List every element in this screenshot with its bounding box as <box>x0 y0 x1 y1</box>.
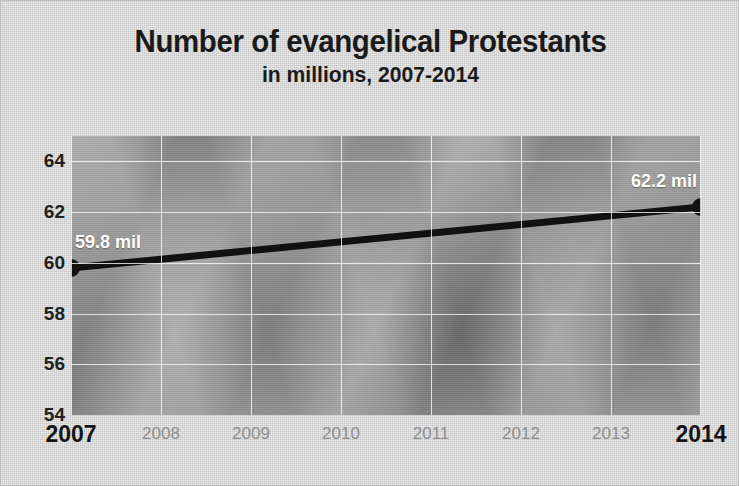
gridline-vertical <box>251 136 252 415</box>
gridline-horizontal <box>71 263 701 264</box>
chart-figure: Number of evangelical Protestants in mil… <box>0 0 739 486</box>
gridline-horizontal <box>71 212 701 213</box>
y-axis-tick-label: 62 <box>21 201 65 223</box>
chart-subtitle: in millions, 2007-2014 <box>16 62 725 88</box>
gridline-vertical <box>700 136 701 415</box>
gridline-vertical <box>431 136 432 415</box>
gridline-horizontal <box>71 364 701 365</box>
x-axis-tick-label: 2007 <box>45 419 96 449</box>
x-axis-tick-label: 2008 <box>142 419 180 449</box>
series-line-chart <box>71 136 701 415</box>
gridline-vertical <box>161 136 162 415</box>
data-point-label: 59.8 mil <box>75 232 141 253</box>
x-axis-tick-label: 2013 <box>592 419 630 449</box>
plot-area <box>71 136 701 415</box>
data-point-marker[interactable] <box>71 259 80 277</box>
gridline-vertical <box>611 136 612 415</box>
gridline-vertical <box>521 136 522 415</box>
chart-title: Number of evangelical Protestants <box>19 25 721 58</box>
x-axis-tick-label: 2014 <box>675 419 726 449</box>
gridline-vertical <box>341 136 342 415</box>
x-axis-tick-label: 2010 <box>322 419 360 449</box>
gridline-horizontal <box>71 314 701 315</box>
x-axis-tick-label: 2012 <box>502 419 540 449</box>
gridline-vertical <box>71 136 72 415</box>
y-axis-tick-label: 58 <box>21 303 65 325</box>
y-axis-tick-label: 60 <box>21 252 65 274</box>
y-axis-tick-label: 56 <box>21 353 65 375</box>
title-block: Number of evangelical Protestants in mil… <box>1 25 739 89</box>
y-axis-tick-label: 64 <box>21 150 65 172</box>
y-axis: 545658606264 <box>13 136 65 415</box>
series-line <box>71 207 701 268</box>
x-axis-tick-label: 2009 <box>232 419 270 449</box>
data-point-label: 62.2 mil <box>631 171 697 192</box>
x-axis-tick-label: 2011 <box>413 419 450 449</box>
x-axis: 20072008200920102011201220132014 <box>71 419 701 453</box>
gridline-horizontal <box>71 161 701 162</box>
